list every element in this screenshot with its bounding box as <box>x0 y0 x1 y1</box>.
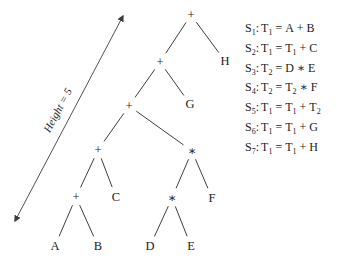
statement-token: T2 <box>309 100 320 114</box>
statement-token: T2 <box>261 61 272 75</box>
tree-node-plus-root: + <box>187 8 194 22</box>
statement-token: + <box>297 21 304 35</box>
statement-token: = <box>275 140 282 154</box>
statement-label: S7: <box>245 140 259 154</box>
statement-token: = <box>275 61 282 75</box>
tree-node-leaf-A: A <box>50 239 59 253</box>
statement-token: + <box>300 100 307 114</box>
statement-token: T1 <box>261 140 272 154</box>
tree-edge-star-l3-leaf-F <box>196 159 208 188</box>
tree-edge-plus-l4-leaf-A <box>59 205 72 236</box>
statement-token: T1 <box>285 120 296 134</box>
statement-S6: S6:T1=T1+G <box>245 118 321 138</box>
tree-edge-plus-l2-plus-l3 <box>104 113 124 141</box>
statement-label: S5: <box>245 100 259 114</box>
statement-token: T1 <box>261 100 272 114</box>
statement-token: T2 <box>285 80 296 94</box>
height-label: Height = 5 <box>40 86 74 136</box>
tree-node-plus-l4: + <box>72 190 79 204</box>
expression-tree-figure: Height = 5 ++H+G+∗+C∗FABDE S1:T1=A+BS2:T… <box>0 0 337 264</box>
tree-node-plus-l2: + <box>125 99 132 113</box>
statement-token: = <box>275 21 282 35</box>
statement-token: D <box>285 61 294 75</box>
statement-token: T1 <box>285 140 296 154</box>
tree-edge-plus-root-plus-l1 <box>166 23 186 54</box>
tree-edge-plus-l1-leaf-G <box>165 69 184 95</box>
tree-node-plus-l3: + <box>94 143 101 157</box>
statement-token: T1 <box>261 41 272 55</box>
tree-node-plus-l1: + <box>156 55 163 69</box>
statement-token: T1 <box>285 100 296 114</box>
statement-S3: S3:T2=D∗E <box>245 59 321 79</box>
statement-token: ∗ <box>297 61 305 75</box>
statement-S1: S1:T1=A+B <box>245 19 321 39</box>
tree-node-star-l4: ∗ <box>168 191 177 205</box>
tree-edge-plus-l1-plus-l2 <box>135 69 155 97</box>
statement-token: C <box>309 41 317 55</box>
statement-token: + <box>300 140 307 154</box>
statement-S7: S7:T1=T1+H <box>245 138 321 158</box>
tree-edges <box>59 22 219 236</box>
statement-S4: S4:T2=T2∗F <box>245 78 321 98</box>
statement-token: + <box>300 41 307 55</box>
height-arrow-group: Height = 5 <box>15 16 123 221</box>
tree-node-leaf-D: D <box>145 239 154 253</box>
tree-edge-plus-l2-star-l3 <box>136 111 183 145</box>
tree-node-leaf-B: B <box>94 239 102 253</box>
statement-token: B <box>307 21 315 35</box>
statement-token: T1 <box>285 41 296 55</box>
tree-nodes: ++H+G+∗+C∗FABDE <box>50 8 229 253</box>
statement-token: = <box>275 41 282 55</box>
statement-label: S1: <box>245 21 259 35</box>
tree-node-leaf-E: E <box>187 239 195 253</box>
tree-edge-plus-l4-leaf-B <box>80 205 94 236</box>
statement-label: S6: <box>245 120 259 134</box>
statement-list: S1:T1=A+BS2:T1=T1+CS3:T2=D∗ES4:T2=T2∗FS5… <box>245 19 321 158</box>
tree-edge-star-l3-star-l4 <box>176 159 188 188</box>
statement-label: S2: <box>245 41 259 55</box>
statement-token: H <box>309 140 318 154</box>
statement-token: T1 <box>261 120 272 134</box>
statement-S5: S5:T1=T1+T2 <box>245 98 321 118</box>
statement-S2: S2:T1=T1+C <box>245 39 321 59</box>
tree-edge-plus-root-leaf-H <box>196 22 219 52</box>
statement-token: = <box>275 100 282 114</box>
tree-node-star-l3: ∗ <box>188 144 197 158</box>
statement-label: S3: <box>245 61 259 75</box>
statement-token: = <box>275 80 282 94</box>
statement-token: = <box>275 120 282 134</box>
tree-edge-plus-l3-leaf-C <box>101 158 112 187</box>
tree-edge-star-l4-leaf-E <box>175 206 187 236</box>
tree-edge-star-l4-leaf-D <box>154 206 168 236</box>
height-arrow <box>15 16 123 221</box>
statement-token: F <box>311 80 318 94</box>
tree-edge-plus-l3-plus-l4 <box>81 158 95 187</box>
statement-token: T1 <box>261 21 272 35</box>
statement-token: T2 <box>261 80 272 94</box>
statement-label: S4: <box>245 80 259 94</box>
statement-token: E <box>308 61 315 75</box>
statement-token: A <box>285 21 294 35</box>
tree-node-leaf-C: C <box>112 190 120 204</box>
statement-token: G <box>309 120 318 134</box>
statement-token: ∗ <box>300 80 308 94</box>
tree-node-leaf-F: F <box>209 191 216 205</box>
tree-node-leaf-G: G <box>185 97 194 111</box>
statement-token: + <box>300 120 307 134</box>
tree-node-leaf-H: H <box>220 54 229 68</box>
